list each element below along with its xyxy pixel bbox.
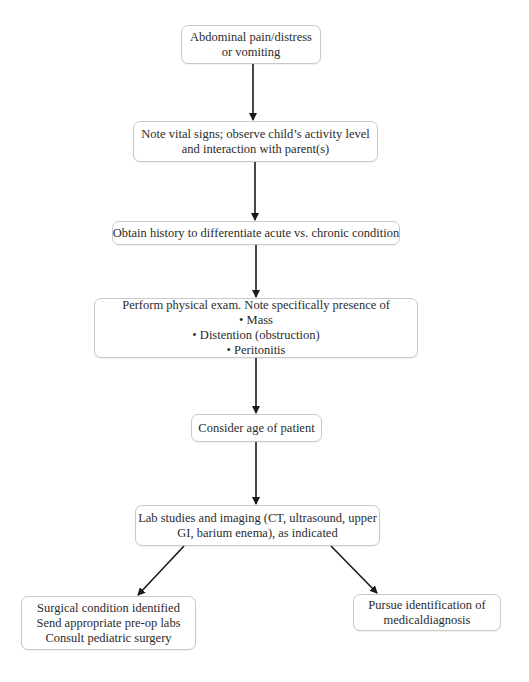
node-physical-exam: Perform physical exam. Note specifically… — [94, 298, 418, 358]
node-bullet-distention: • Distention (obstruction) — [192, 328, 319, 343]
node-bullet-peritonitis: • Peritonitis — [227, 343, 286, 358]
node-text-line: or vomiting — [222, 45, 281, 60]
node-text-line: and interaction with parent(s) — [182, 142, 330, 157]
node-medical-diagnosis: Pursue identification of medicaldiagnosi… — [353, 594, 501, 631]
node-lab-studies: Lab studies and imaging (CT, ultrasound,… — [135, 505, 380, 546]
node-text-line: Note vital signs; observe child’s activi… — [141, 127, 369, 142]
arrow-labs-to-surgical — [138, 546, 184, 595]
node-bullet-mass: • Mass — [239, 313, 273, 328]
arrow-labs-to-medical — [331, 546, 377, 593]
node-text-line: Lab studies and imaging (CT, ultrasound,… — [138, 511, 377, 526]
node-abdominal-pain: Abdominal pain/distress or vomiting — [181, 25, 321, 64]
node-text-line: Consult pediatric surgery — [45, 631, 171, 646]
node-note-vital-signs: Note vital signs; observe child’s activi… — [133, 121, 378, 162]
node-obtain-history: Obtain history to differentiate acute vs… — [112, 221, 400, 245]
node-text-line: Send appropriate pre-op labs — [36, 616, 180, 631]
node-text-line: Consider age of patient — [198, 421, 314, 436]
node-text-line: Pursue identification of — [368, 598, 485, 613]
node-text-line: medicaldiagnosis — [384, 613, 471, 628]
node-text-line: GI, barium enema), as indicated — [177, 526, 337, 541]
node-consider-age: Consider age of patient — [191, 414, 322, 442]
node-surgical-condition: Surgical condition identified Send appro… — [21, 596, 196, 650]
node-text-line: Obtain history to differentiate acute vs… — [113, 226, 400, 241]
node-text-line: Perform physical exam. Note specifically… — [122, 298, 390, 313]
node-text-line: Surgical condition identified — [37, 601, 180, 616]
node-text-line: Abdominal pain/distress — [190, 30, 312, 45]
